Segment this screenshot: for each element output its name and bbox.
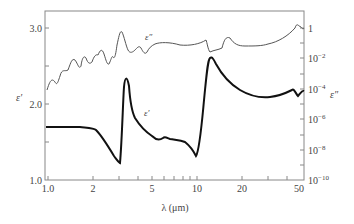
y-right-tick-base: 10 <box>308 84 318 95</box>
svg-text:10−2: 10−2 <box>308 52 326 64</box>
svg-text:10−6: 10−6 <box>308 113 326 125</box>
svg-text:10−10: 10−10 <box>308 174 329 186</box>
chart: 3.0 2.0 1.0 ε′ 1 10−2 10−4 10−6 10−8 10−… <box>0 0 354 224</box>
y-right-tick-exp: −4 <box>318 83 326 91</box>
x-tick-50: 50 <box>294 183 304 194</box>
plot-frame <box>45 11 304 180</box>
y-left-tick-3: 3.0 <box>30 23 43 34</box>
y-right-tick-exp: −2 <box>318 52 326 60</box>
x-ticks <box>48 176 287 180</box>
y-left-label: ε′ <box>16 92 23 103</box>
x-axis-label: λ (μm) <box>161 202 188 214</box>
y-right-tick-base: 10 <box>308 114 318 125</box>
y-right-tick-base: 10 <box>308 175 318 186</box>
eps2-curve-label: ε″ <box>145 32 153 42</box>
svg-text:10−4: 10−4 <box>308 83 326 95</box>
y-right-label: ε″ <box>330 89 339 100</box>
x-tick-2: 2 <box>91 183 96 194</box>
y-left-tick-1: 1.0 <box>30 175 43 186</box>
eps1-curve-label: ε′ <box>144 108 151 118</box>
y-right-tick-base: 10 <box>308 53 318 64</box>
y-right-tick-exp: −10 <box>318 174 329 182</box>
svg-text:10−8: 10−8 <box>308 144 326 156</box>
x-tick-10: 10 <box>192 183 202 194</box>
x-tick-5: 5 <box>150 183 155 194</box>
y-right-tick-exp: −8 <box>318 144 326 152</box>
eps2-curve <box>47 25 304 90</box>
y-right-tick-base: 10 <box>308 145 318 156</box>
x-tick-1: 1.0 <box>42 183 55 194</box>
x-tick-20: 20 <box>237 183 247 194</box>
y-left-tick-2: 2.0 <box>30 99 43 110</box>
eps1-curve <box>46 57 304 163</box>
right-y-ticks <box>300 28 304 165</box>
y-right-tick-exp: −6 <box>318 113 326 121</box>
y-right-tick-0: 1 <box>308 23 313 34</box>
y-right-tick-labels: 1 10−2 10−4 10−6 10−8 10−10 <box>308 23 329 186</box>
